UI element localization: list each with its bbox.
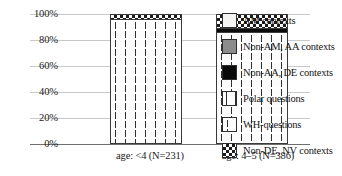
y-tick-label-40: 40% [16,87,58,97]
plot-area [98,14,202,144]
checkerboard-swatch-icon [222,143,237,158]
x-axis-label-age-under-4: age: <4 (N=231) [96,150,204,161]
legend-label-non-aa-de-contexts: Non-AA, DE contexts [243,67,333,78]
y-tick-label-0: 0% [16,139,58,149]
stacked-bar-chart: 100% 80% 60% 40% 20% 0% age: <4 (N=231) … [0,0,342,176]
legend-label-polar-questions: Polar questions [243,93,304,104]
legend-item-wh-questions[interactable]: WH-questions [222,114,301,134]
legend-label-am-contexts: AM contexts [243,15,295,26]
legend-item-polar-questions[interactable]: Polar questions [222,88,304,108]
legend-item-am-contexts[interactable]: AM contexts [222,10,295,30]
legend-item-non-am-aa-contexts[interactable]: Non-AM, AA contexts [222,36,335,56]
vertical-ticks-swatch-icon [222,117,237,132]
legend: AM contexts Non-AM, AA contexts Non-AA, … [222,10,342,162]
solid-black-swatch-icon [222,65,237,80]
legend-label-non-am-aa-contexts: Non-AM, AA contexts [243,41,335,52]
y-tick-label-100: 100% [16,9,58,19]
legend-item-non-de-nv-contexts[interactable]: Non-DE, NV contexts [222,140,333,160]
legend-label-wh-questions: WH-questions [243,119,301,130]
legend-item-non-aa-de-contexts[interactable]: Non-AA, DE contexts [222,62,333,82]
y-tick-label-20: 20% [16,113,58,123]
solid-gray-swatch-icon [222,39,237,54]
bar-age-under-4[interactable] [110,14,182,144]
dashes-swatch-icon [222,91,237,106]
y-tick-label-60: 60% [16,61,58,71]
solid-white-swatch-icon [222,13,237,28]
segment-wh-questions [111,19,181,143]
legend-label-non-de-nv-contexts: Non-DE, NV contexts [243,145,333,156]
y-tick-label-80: 80% [16,35,58,45]
y-axis: 100% 80% 60% 40% 20% 0% [0,14,58,144]
